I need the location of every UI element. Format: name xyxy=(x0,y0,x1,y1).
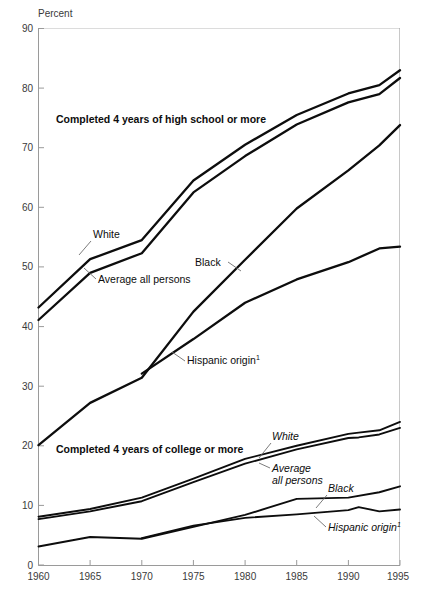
hs-white-leader xyxy=(79,241,91,255)
y-tick-60: 60 xyxy=(22,202,34,213)
col-black-label: Black xyxy=(328,482,354,494)
education-attainment-chart: Percent 90 80 70 60 50 40 30 20 xyxy=(0,0,421,593)
x-tick-1980: 1980 xyxy=(234,571,257,582)
col-average-leader xyxy=(259,463,270,468)
x-tick-1960: 1960 xyxy=(27,571,50,582)
hs-hispanic-label: Hispanic origin1 xyxy=(187,354,260,366)
hs-panel-title: Completed 4 years of high school or more xyxy=(56,113,266,125)
series-college-black xyxy=(39,486,401,546)
y-tick-50: 50 xyxy=(22,261,34,272)
series-high-school-hispanic-origin xyxy=(142,247,400,374)
x-tick-1995: 1995 xyxy=(387,571,410,582)
y-tick-30: 30 xyxy=(22,381,34,392)
y-tick-10: 10 xyxy=(22,500,34,511)
y-tick-80: 80 xyxy=(22,83,34,94)
x-axis-ticks xyxy=(39,560,401,566)
col-hispanic-footnote: 1 xyxy=(397,521,401,528)
col-average-line1: Average xyxy=(271,462,311,474)
hs-white-label: White xyxy=(93,228,120,240)
y-axis-ticks xyxy=(39,29,45,566)
y-axis-tick-labels: 90 80 70 60 50 40 30 20 10 0 xyxy=(22,23,34,571)
y-tick-70: 70 xyxy=(22,142,34,153)
hs-hispanic-leader xyxy=(172,352,185,361)
col-hispanic-leader xyxy=(314,516,326,527)
col-hispanic-text: Hispanic origin xyxy=(328,521,397,533)
col-hispanic-label: Hispanic origin1 xyxy=(328,521,401,533)
hs-black-label: Black xyxy=(195,256,221,268)
x-tick-1990: 1990 xyxy=(337,571,360,582)
y-axis-title: Percent xyxy=(38,8,73,19)
hs-hispanic-footnote: 1 xyxy=(256,354,260,361)
series-college-average-all-persons xyxy=(39,428,401,519)
y-tick-40: 40 xyxy=(22,321,34,332)
col-black-leader xyxy=(316,495,327,508)
hs-hispanic-text: Hispanic origin xyxy=(187,354,256,366)
x-axis-tick-labels: 1960 1965 1970 1975 1980 1985 1990 1995 xyxy=(27,571,409,582)
series-college-white xyxy=(39,422,401,517)
col-white-leader xyxy=(259,443,271,458)
col-average-line2: all persons xyxy=(272,474,324,486)
hs-average-label: Average all persons xyxy=(98,273,191,285)
col-panel-title: Completed 4 years of college or more xyxy=(56,443,243,455)
chart-svg: Percent 90 80 70 60 50 40 30 20 xyxy=(0,0,421,593)
series-layer xyxy=(39,70,401,546)
col-white-label: White xyxy=(272,430,299,442)
y-tick-0: 0 xyxy=(27,560,33,571)
x-tick-1975: 1975 xyxy=(182,571,205,582)
x-tick-1965: 1965 xyxy=(79,571,102,582)
y-tick-20: 20 xyxy=(22,440,34,451)
x-tick-1985: 1985 xyxy=(286,571,309,582)
x-tick-1970: 1970 xyxy=(131,571,154,582)
y-tick-90: 90 xyxy=(22,23,34,34)
